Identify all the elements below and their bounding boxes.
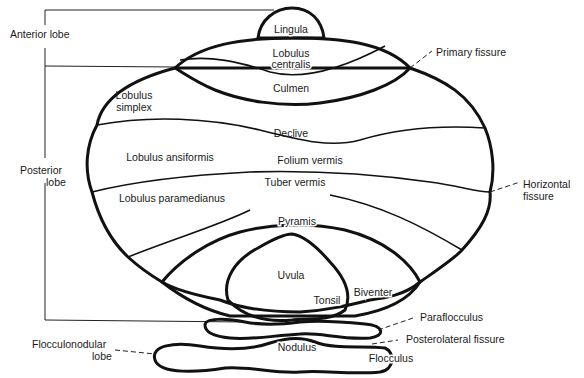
label-folium-vermis: Folium vermis (277, 154, 342, 166)
posterolateral-fissure-leader (372, 340, 398, 344)
cerebellum-diagram: Anterior lobe Posterior lobe Flocculonod… (0, 0, 584, 378)
label-lobulus-ansiformis: Lobulus ansiformis (126, 151, 214, 163)
label-biventer: Biventer (354, 286, 393, 298)
label-lobulus-simplex-1: Lobulus (116, 89, 153, 101)
label-flocculonodular-2: lobe (92, 350, 112, 362)
anterior-posterior-divider (45, 66, 175, 67)
label-culmen: Culmen (273, 82, 309, 94)
primary-fissure-leader (410, 51, 432, 68)
label-nodulus: Nodulus (278, 341, 317, 353)
label-lobulus-simplex-2: simplex (116, 101, 152, 113)
label-primary-fissure: Primary fissure (436, 46, 506, 58)
paraflocculus-leader (378, 317, 416, 330)
label-tonsil: Tonsil (314, 294, 341, 306)
label-tuber-vermis: Tuber vermis (265, 176, 326, 188)
label-lobulus-paramedianus: Lobulus paramedianus (119, 192, 225, 204)
label-pyramis: Pyramis (278, 215, 316, 227)
flocculonodular (154, 319, 392, 373)
label-flocculonodular-1: Flocculonodular (32, 338, 107, 350)
lobe-brackets (45, 10, 274, 322)
nodulus-flocculus-shape (154, 338, 392, 373)
label-posterolateral-fissure: Posterolateral fissure (406, 333, 505, 345)
anterior-bracket-top (45, 10, 274, 25)
label-lingula: Lingula (274, 23, 308, 35)
label-posterior-lobe-2: lobe (46, 176, 66, 188)
label-lobulus-centralis-2: centralis (271, 58, 310, 70)
label-flocculus: Flocculus (369, 352, 413, 364)
flocculonodular-leader (115, 350, 155, 354)
label-paraflocculus: Paraflocculus (420, 311, 483, 323)
label-horizontal-fissure-2: fissure (523, 190, 554, 202)
label-declive: Declive (274, 127, 309, 139)
horizontal-fissure-leader (490, 182, 520, 192)
label-posterior-lobe-1: Posterior (20, 164, 63, 176)
label-horizontal-fissure-1: Horizontal (523, 178, 570, 190)
label-uvula: Uvula (278, 269, 305, 281)
label-anterior-lobe: Anterior lobe (10, 28, 70, 40)
paramedianus-right-boundary (330, 195, 462, 250)
